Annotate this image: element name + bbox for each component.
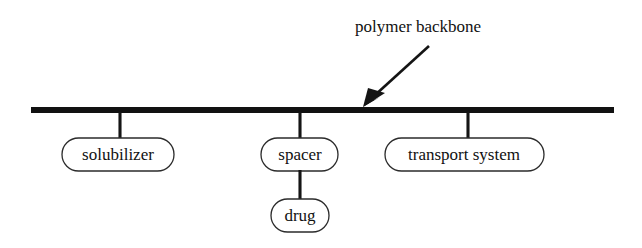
node-label-transport-system: transport system xyxy=(408,145,520,164)
annotation-label-polymer-backbone: polymer backbone xyxy=(355,17,481,36)
branch-drug: drug xyxy=(271,170,329,232)
arrow-head-fill-icon xyxy=(363,88,385,107)
branch-transport-system: transport system xyxy=(385,112,544,171)
node-label-drug: drug xyxy=(284,206,316,225)
annotation-arrow xyxy=(363,46,429,107)
branch-solubilizer: solubilizer xyxy=(62,112,174,171)
polymer-conjugate-diagram: polymer backbone solubilizer spacer drug xyxy=(0,0,642,248)
arrow-shaft xyxy=(374,46,429,96)
branch-spacer: spacer xyxy=(261,112,338,171)
node-label-solubilizer: solubilizer xyxy=(82,145,154,164)
node-label-spacer: spacer xyxy=(278,145,322,164)
